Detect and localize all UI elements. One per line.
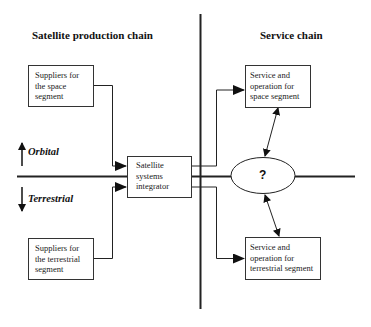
box-systems-integrator: Satellite systems integrator bbox=[127, 156, 192, 198]
double-arrow-lower bbox=[265, 195, 279, 236]
label-orbital: Orbital bbox=[28, 146, 59, 157]
double-arrow-upper bbox=[265, 108, 278, 156]
box-service-space: Service and operation for space segment bbox=[245, 65, 311, 108]
ellipse-question-mark: ? bbox=[259, 168, 266, 182]
connector-suppliers-space bbox=[93, 86, 126, 167]
connector-suppliers-terrestrial bbox=[93, 187, 126, 259]
label-terrestrial: Terrestrial bbox=[28, 193, 73, 204]
box-suppliers-space: Suppliers for the space segment bbox=[28, 65, 94, 107]
box-suppliers-terrestrial: Suppliers for the terrestrial segment bbox=[28, 238, 94, 280]
heading-service-chain: Service chain bbox=[260, 29, 323, 41]
heading-production-chain: Satellite production chain bbox=[32, 29, 153, 41]
box-service-terrestrial: Service and operation for terrestrial se… bbox=[245, 237, 321, 280]
